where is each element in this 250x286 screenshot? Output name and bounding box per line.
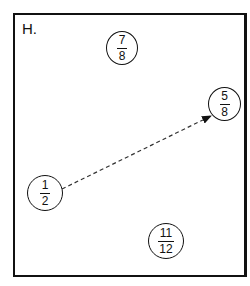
fraction-circle-eleven-twelfths: 11 12 xyxy=(148,223,184,259)
fraction-circle-five-eighths: 5 8 xyxy=(208,87,241,121)
numerator: 5 xyxy=(221,90,228,103)
numerator: 7 xyxy=(119,34,126,47)
fraction-circle-one-half: 1 2 xyxy=(27,175,63,211)
dashed-arrow xyxy=(62,116,211,189)
denominator: 8 xyxy=(119,50,126,62)
numerator: 1 xyxy=(42,179,49,192)
fraction-circle-seven-eighths: 7 8 xyxy=(106,31,138,65)
denominator: 12 xyxy=(159,243,172,255)
numerator: 11 xyxy=(160,227,172,240)
denominator: 2 xyxy=(42,195,49,207)
denominator: 8 xyxy=(221,106,228,118)
